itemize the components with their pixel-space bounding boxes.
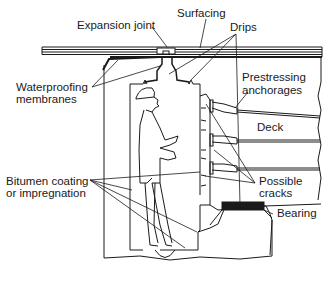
label-surfacing: Surfacing xyxy=(177,7,226,19)
label-cracks-line2: cracks xyxy=(259,187,292,199)
diagram-drawing xyxy=(0,0,333,286)
label-bearing: Bearing xyxy=(277,207,317,219)
surfacing-layers xyxy=(42,47,322,57)
label-bitumen-line2: or impregnation xyxy=(6,187,86,199)
label-expansion-joint: Expansion joint xyxy=(77,19,155,31)
crack-marks xyxy=(201,108,206,186)
label-prestressing-line1: Prestressing xyxy=(242,71,306,83)
label-drips: Drips xyxy=(230,21,257,33)
label-prestressing-line2: anchorages xyxy=(242,84,302,96)
label-deck: Deck xyxy=(257,121,283,133)
label-waterproofing-line1: Waterproofing xyxy=(16,81,88,93)
leader-lines xyxy=(90,19,273,248)
bridge-joint-diagram: Surfacing Expansion joint Drips Waterpro… xyxy=(0,0,333,286)
inspector-figure xyxy=(136,88,178,246)
label-cracks-line1: Possible xyxy=(259,175,302,187)
label-waterproofing-line2: membranes xyxy=(16,93,77,105)
label-bitumen-line1: Bitumen coating xyxy=(6,175,88,187)
